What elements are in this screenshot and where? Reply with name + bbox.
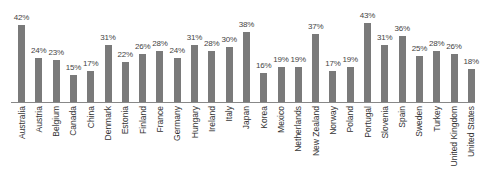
category-label: Japan [241, 106, 251, 186]
value-label: 31% [100, 33, 115, 42]
category-label: Portugal [363, 106, 373, 186]
bar [381, 45, 388, 102]
category-label: France [155, 106, 165, 186]
category-label: Korea [259, 106, 269, 186]
category-label: Canada [68, 106, 78, 186]
category-label: Turkey [432, 106, 442, 186]
value-label: 16% [256, 61, 271, 70]
category-label: Ireland [207, 106, 217, 186]
value-label: 24% [31, 46, 46, 55]
value-label: 17% [83, 59, 98, 68]
category-label: Denmark [103, 106, 113, 186]
bar [35, 58, 42, 102]
bar [18, 25, 25, 102]
bar [278, 67, 285, 102]
bar [53, 60, 60, 102]
category-label: United Kingdom [449, 106, 459, 186]
value-label: 36% [394, 24, 409, 33]
category-label: Italy [224, 106, 234, 186]
category-label: Sweden [414, 106, 424, 186]
value-label: 24% [169, 46, 184, 55]
category-label: Austria [34, 106, 44, 186]
bar [70, 75, 77, 102]
category-label: Finland [138, 106, 148, 186]
value-label: 19% [342, 55, 357, 64]
category-label: China [86, 106, 96, 186]
bar [260, 73, 267, 102]
category-label: Australia [17, 106, 27, 186]
category-label: Spain [397, 106, 407, 186]
value-label: 23% [48, 48, 63, 57]
value-label: 15% [66, 63, 81, 72]
bar [139, 54, 146, 102]
bar [174, 58, 181, 102]
category-label: Poland [345, 106, 355, 186]
value-label: 19% [273, 55, 288, 64]
value-label: 28% [429, 39, 444, 48]
bar [208, 51, 215, 102]
value-label: 22% [118, 50, 133, 59]
bar [156, 51, 163, 102]
category-label: New Zealand [311, 106, 321, 186]
bar [329, 71, 336, 102]
value-label: 28% [204, 39, 219, 48]
bar [399, 36, 406, 102]
value-label: 30% [221, 35, 236, 44]
x-axis-line [11, 102, 475, 103]
value-label: 17% [325, 59, 340, 68]
bar [416, 56, 423, 102]
value-label: 25% [412, 44, 427, 53]
value-label: 26% [135, 42, 150, 51]
bar [347, 67, 354, 102]
value-label: 18% [464, 57, 479, 66]
category-label: Hungary [190, 106, 200, 186]
category-label: Norway [328, 106, 338, 186]
bar [243, 32, 250, 102]
bar [364, 23, 371, 102]
category-label: Mexico [276, 106, 286, 186]
bar [122, 62, 129, 102]
category-label: Belgium [51, 106, 61, 186]
category-label: Slovenia [380, 106, 390, 186]
value-label: 19% [291, 55, 306, 64]
bar [191, 45, 198, 102]
value-label: 43% [360, 11, 375, 20]
value-label: 26% [446, 42, 461, 51]
category-label: Estonia [120, 106, 130, 186]
bar [312, 34, 319, 102]
bar [433, 51, 440, 102]
value-label: 42% [14, 13, 29, 22]
value-label: 31% [187, 33, 202, 42]
value-label: 28% [152, 39, 167, 48]
bar [468, 69, 475, 102]
value-label: 38% [239, 20, 254, 29]
bar [226, 47, 233, 102]
bar [451, 54, 458, 102]
bar [87, 71, 94, 102]
bar [105, 45, 112, 102]
category-label: Netherlands [293, 106, 303, 186]
value-label: 37% [308, 22, 323, 31]
value-label: 31% [377, 33, 392, 42]
category-label: Germany [172, 106, 182, 186]
bar-chart: 42%Australia24%Austria23%Belgium15%Canad… [0, 0, 489, 186]
bar [295, 67, 302, 102]
category-label: United States [466, 106, 476, 186]
